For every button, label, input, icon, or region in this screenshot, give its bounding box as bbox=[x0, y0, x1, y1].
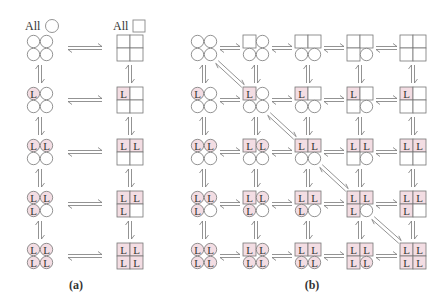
ligand-label: L bbox=[207, 140, 214, 152]
ligand-label: L bbox=[416, 257, 423, 269]
state-r4-c4: LLLL bbox=[400, 243, 426, 269]
circle-subunit bbox=[191, 35, 203, 47]
equilibrium-arrow-vertical bbox=[36, 117, 45, 135]
ligand-label: L bbox=[403, 244, 410, 256]
ligand-label: L bbox=[30, 244, 37, 256]
square-subunit bbox=[413, 100, 426, 113]
state-r4-c3: LLLL bbox=[347, 243, 373, 269]
state-r0-c1 bbox=[243, 35, 269, 61]
equilibrium-arrow-horizontal bbox=[324, 44, 344, 53]
state-r1-c4: L bbox=[400, 87, 426, 113]
equilibrium-arrow-vertical bbox=[36, 221, 45, 239]
circle-subunit bbox=[243, 152, 255, 164]
equilibrium-arrow-horizontal bbox=[272, 44, 292, 53]
square-subunit bbox=[400, 152, 413, 165]
ligand-label: L bbox=[246, 257, 253, 269]
ligand-label: L bbox=[298, 140, 305, 152]
equilibrium-arrow-vertical bbox=[304, 169, 313, 187]
ligand-label: L bbox=[350, 205, 357, 217]
ligand-label: L bbox=[207, 192, 214, 204]
circle-subunit bbox=[295, 48, 307, 60]
panel-a-concerted-model: LLLLLLLLLLLLLLLLLLLL bbox=[27, 35, 143, 269]
ligand-label: L bbox=[133, 244, 140, 256]
circle-subunit bbox=[360, 152, 372, 164]
state-r0-c4 bbox=[400, 35, 426, 61]
ligand-label: L bbox=[403, 140, 410, 152]
equilibrium-arrow-vertical bbox=[36, 169, 45, 187]
state-r1-c2: L bbox=[295, 87, 321, 113]
ligand-label: L bbox=[350, 192, 357, 204]
ligand-label: L bbox=[298, 244, 305, 256]
square-subunit bbox=[130, 87, 143, 100]
ligand-label: L bbox=[133, 140, 140, 152]
circle-subunit bbox=[360, 100, 372, 112]
equilibrium-arrow-vertical bbox=[200, 221, 209, 239]
circle-subunit bbox=[360, 204, 372, 216]
circle-subunit bbox=[243, 48, 255, 60]
ligand-label: L bbox=[120, 257, 127, 269]
circle-subunit bbox=[256, 152, 268, 164]
ligand-label: L bbox=[311, 244, 318, 256]
ligand-label: L bbox=[311, 257, 318, 269]
equilibrium-arrow-horizontal bbox=[272, 200, 292, 209]
ligand-label: L bbox=[120, 205, 127, 217]
ligand-label: L bbox=[133, 257, 140, 269]
ligand-label: L bbox=[43, 257, 50, 269]
ligand-label: L bbox=[246, 140, 253, 152]
circle-tetramer-2: LL bbox=[27, 139, 52, 164]
allosteric-model-diagram: All All LLLLLLLLLLLLLLLLLLLL LLLLLLLLLLL… bbox=[0, 0, 446, 300]
ligand-label: L bbox=[194, 140, 201, 152]
ligand-label: L bbox=[120, 88, 127, 100]
ligand-label: L bbox=[298, 88, 305, 100]
square-tetramer-2: LL bbox=[117, 139, 143, 165]
equilibrium-arrow-vertical bbox=[409, 65, 418, 83]
ligand-label: L bbox=[259, 140, 266, 152]
square-subunit bbox=[400, 35, 413, 48]
state-r2-c4: LL bbox=[400, 139, 426, 165]
ligand-label: L bbox=[350, 244, 357, 256]
circle-subunit bbox=[295, 152, 307, 164]
ligand-label: L bbox=[246, 244, 253, 256]
equilibrium-arrow-horizontal bbox=[272, 148, 292, 157]
ligand-label: L bbox=[194, 205, 201, 217]
state-r0-c2 bbox=[295, 35, 321, 61]
equilibrium-arrow-vertical bbox=[252, 169, 261, 187]
ligand-label: L bbox=[120, 244, 127, 256]
ligand-label: L bbox=[363, 192, 370, 204]
ligand-label: L bbox=[194, 244, 201, 256]
equilibrium-arrow-horizontal bbox=[324, 148, 344, 157]
circle-subunit bbox=[204, 48, 216, 60]
circle-subunit bbox=[308, 152, 320, 164]
ligand-label: L bbox=[246, 88, 253, 100]
square-subunit bbox=[413, 48, 426, 61]
ligand-label: L bbox=[30, 192, 37, 204]
circle-subunit bbox=[308, 204, 320, 216]
legend-all-square-label: All bbox=[113, 19, 129, 33]
circle-subunit bbox=[256, 35, 268, 47]
ligand-label: L bbox=[246, 205, 253, 217]
circle-subunit bbox=[204, 87, 216, 99]
equilibrium-arrow-horizontal bbox=[272, 252, 292, 261]
ligand-label: L bbox=[363, 257, 370, 269]
panel-b-label: (b) bbox=[305, 278, 320, 292]
equilibrium-arrow-horizontal bbox=[68, 148, 102, 157]
circle-subunit bbox=[27, 100, 39, 112]
square-subunit bbox=[243, 35, 256, 48]
equilibrium-arrow-horizontal bbox=[220, 200, 240, 209]
equilibrium-arrow-horizontal bbox=[68, 44, 102, 53]
ligand-label: L bbox=[259, 244, 266, 256]
equilibrium-arrow-horizontal bbox=[376, 200, 397, 209]
circle-subunit bbox=[256, 204, 268, 216]
ligand-label: L bbox=[43, 244, 50, 256]
equilibrium-arrow-horizontal bbox=[272, 96, 292, 105]
equilibrium-arrow-vertical bbox=[126, 65, 135, 83]
legend-all-circle-label: All bbox=[25, 19, 41, 33]
circle-subunit bbox=[204, 100, 216, 112]
circle-tetramer-4: LLLL bbox=[27, 243, 52, 268]
equilibrium-arrow-horizontal bbox=[220, 148, 240, 157]
state-r1-c3: L bbox=[347, 87, 373, 113]
equilibrium-arrow-horizontal bbox=[324, 96, 344, 105]
state-r3-c3: LLL bbox=[347, 191, 373, 217]
square-subunit bbox=[130, 100, 143, 113]
square-subunit bbox=[295, 35, 308, 48]
